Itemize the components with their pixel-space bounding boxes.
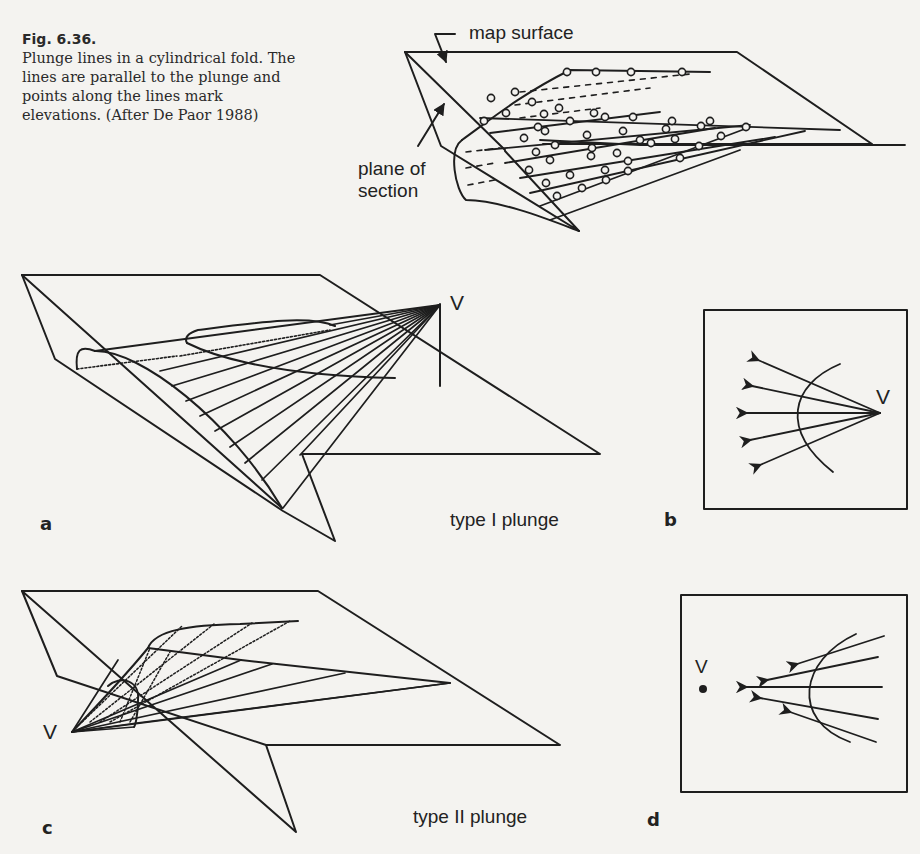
panel-a-title: type I plunge <box>450 509 559 531</box>
panel-d-map-view <box>681 595 907 792</box>
panel-b-map-view <box>704 310 907 509</box>
label-map-surface: map surface <box>469 22 574 44</box>
panel-c-title: type II plunge <box>413 806 527 828</box>
panel-b-letter: b <box>664 509 677 530</box>
label-plane-of-section-line2: section <box>358 180 418 201</box>
panel-c-type-ii-plunge <box>22 591 560 832</box>
diagram-canvas <box>0 0 920 854</box>
panel-d-letter: d <box>647 809 660 830</box>
panel-a-vertex-label: V <box>450 291 464 315</box>
panel-c-vertex-label: V <box>43 720 57 744</box>
panel-a-type-i-plunge <box>22 275 600 541</box>
label-plane-of-section-line1: plane of <box>358 158 426 179</box>
top-fold-diagram <box>405 34 905 231</box>
panel-d-vertex-label: V <box>695 656 708 678</box>
label-plane-of-section: plane of section <box>358 158 426 202</box>
panel-a-letter: a <box>40 513 52 534</box>
panel-c-letter: c <box>42 817 53 838</box>
vertex-point <box>699 685 707 693</box>
panel-b-vertex-label: V <box>876 385 890 409</box>
